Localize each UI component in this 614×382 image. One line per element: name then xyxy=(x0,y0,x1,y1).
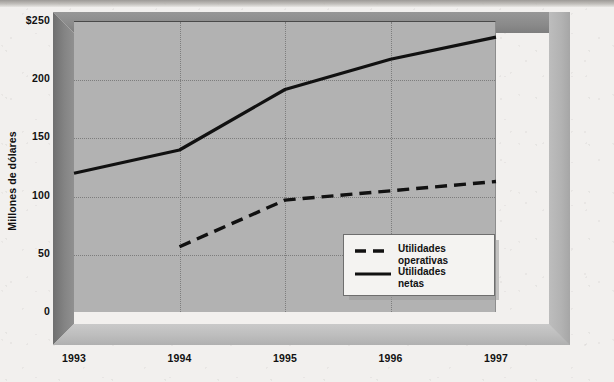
legend-item-utilidades-operativas: Utilidades operativas xyxy=(354,243,448,266)
frame-right-bevel xyxy=(549,12,570,345)
legend-label-line1: Utilidades xyxy=(398,243,446,254)
x-axis-tick-labels: 19931994199519961997 xyxy=(0,352,614,368)
x-axis-tick-label: 1993 xyxy=(39,352,109,364)
legend-item-utilidades-netas: Utilidades netas xyxy=(354,266,446,289)
chart-legend: Utilidades operativas Utilidades netas xyxy=(343,234,495,296)
y-axis-tick-label: $250 xyxy=(4,14,50,26)
legend-label-line2: operativas xyxy=(398,255,448,266)
x-axis-tick-label: 1996 xyxy=(356,352,426,364)
frame-left-bevel xyxy=(53,12,74,345)
y-axis-title: Millones de dólares xyxy=(6,106,18,256)
series-line-utilidades-netas xyxy=(74,37,496,173)
legend-label-utilidades-operativas: Utilidades operativas xyxy=(398,243,448,266)
frame-bottom-bevel xyxy=(53,324,570,345)
x-axis-tick-label: 1994 xyxy=(145,352,215,364)
dashed-line-swatch-icon xyxy=(354,245,392,257)
line-chart-figure: $250200150100500 Millones de dólares 199… xyxy=(0,0,614,382)
y-axis-tick-label: 0 xyxy=(4,305,50,317)
solid-line-swatch-icon xyxy=(354,268,392,280)
x-axis-tick-label: 1995 xyxy=(250,352,320,364)
legend-label-line2: netas xyxy=(398,278,424,289)
y-axis-tick-label: 200 xyxy=(4,72,50,84)
legend-label-utilidades-netas: Utilidades netas xyxy=(398,266,446,289)
x-axis-tick-label: 1997 xyxy=(461,352,531,364)
legend-label-line1: Utilidades xyxy=(398,266,446,277)
